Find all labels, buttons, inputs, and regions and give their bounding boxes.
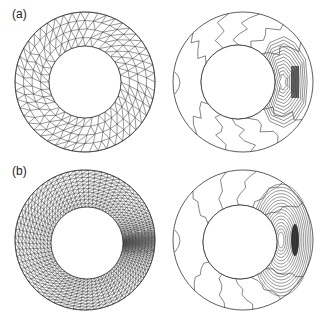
mesh-b bbox=[15, 170, 155, 310]
figure-canvas bbox=[0, 0, 333, 321]
mesh-a bbox=[15, 12, 155, 152]
contour-b bbox=[173, 170, 313, 310]
contour-a bbox=[173, 12, 313, 152]
